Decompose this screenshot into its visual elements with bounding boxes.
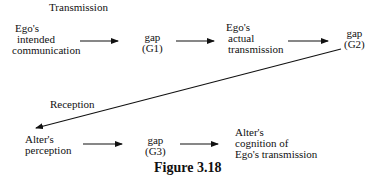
node-alter-cognition: Alter's cognition of Ego's transmission [235,127,317,160]
node-gap-g3: gap (G3) [145,135,166,157]
node-ego-intended: Ego's intended communication [12,23,80,56]
node-line: (G2) [344,39,365,50]
node-alter-perception: Alter's perception [25,134,71,156]
node-gap-g2: gap (G2) [344,28,365,50]
reception-label: Reception [50,99,95,110]
node-line: transmission [226,44,284,55]
node-line: Ego's transmission [235,149,317,160]
node-line: (G1) [142,43,163,54]
figure-caption: Figure 3.18 [154,160,221,176]
node-line: communication [12,45,80,56]
node-ego-actual: Ego's actual transmission [226,22,284,55]
node-line: perception [25,145,71,156]
node-gap-g1: gap (G1) [142,32,163,54]
node-line: (G3) [145,146,166,157]
transmission-label: Transmission [49,2,108,13]
arrow-g2-to-perception [36,49,341,128]
